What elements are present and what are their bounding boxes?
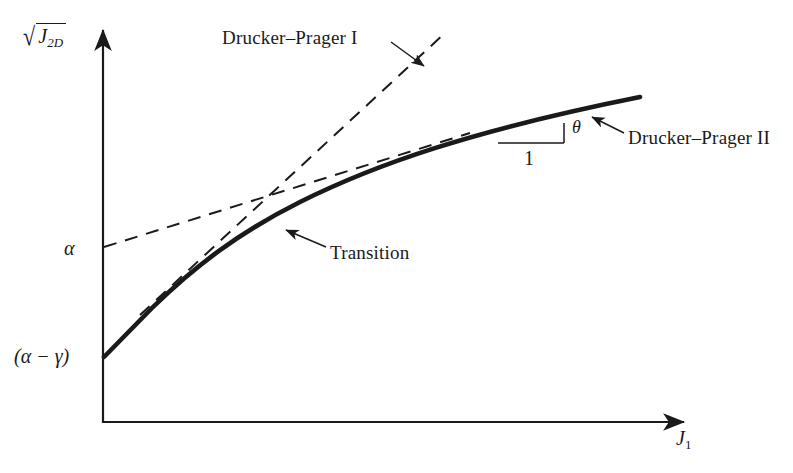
- slope-angle-label: θ: [572, 118, 581, 136]
- x-axis-label-base: J: [676, 427, 685, 449]
- drucker-prager-2-label: Drucker–Prager II: [628, 128, 770, 147]
- x-axis-label: J1: [676, 428, 691, 451]
- drucker-prager-1-leader: [391, 42, 424, 66]
- y-axis-label-base: J: [38, 25, 47, 47]
- alpha-minus-gamma-intercept-label: (α − γ): [14, 346, 69, 366]
- transition-leader: [286, 230, 326, 247]
- radical-sign: √: [23, 24, 35, 50]
- drucker-prager-1-label: Drucker–Prager I: [222, 28, 358, 47]
- drucker-prager-2-leader: [592, 117, 624, 133]
- y-axis-label-subscript: 2D: [47, 35, 63, 50]
- transition-label: Transition: [330, 243, 409, 262]
- drucker-prager-figure: √J2D J1 α (α − γ) Drucker–Prager I Druck…: [0, 0, 793, 473]
- y-axis-label: √J2D: [22, 22, 66, 49]
- x-axis-label-subscript: 1: [685, 437, 692, 452]
- slope-run-label: 1: [524, 148, 534, 168]
- figure-canvas: [0, 0, 793, 473]
- transition-curve: [104, 97, 640, 357]
- drucker-prager-1-line: [140, 33, 445, 315]
- alpha-intercept-label: α: [64, 238, 75, 258]
- radicand: J2D: [36, 23, 66, 49]
